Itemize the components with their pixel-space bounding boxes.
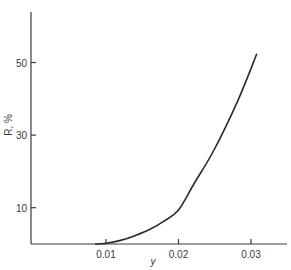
line-chart: 103050 R, % 0.010.020.03 y [0,0,291,270]
y-tick-label: 10 [16,203,28,214]
x-ticks: 0.010.020.03 [96,239,261,260]
data-curve [95,54,257,244]
y-tick-label: 30 [16,130,28,141]
x-tick-label: 0.01 [96,249,116,260]
y-axis: 103050 R, % [3,12,36,244]
x-tick-label: 0.02 [169,249,189,260]
y-axis-label: R, % [3,114,14,136]
x-tick-label: 0.03 [241,249,261,260]
x-axis: 0.010.020.03 y [31,239,287,267]
y-ticks: 103050 [16,58,36,214]
y-tick-label: 50 [16,58,28,69]
x-axis-label: y [150,256,157,267]
